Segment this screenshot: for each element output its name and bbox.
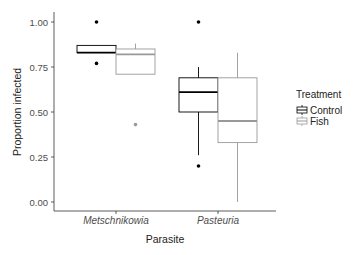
y-tick-label: 0.25 bbox=[30, 152, 49, 163]
y-tick-label: 0.00 bbox=[30, 197, 49, 208]
legend-label: Fish bbox=[310, 116, 329, 127]
box-control-pasteuria bbox=[179, 20, 218, 168]
legend: Treatment ControlFish bbox=[296, 89, 342, 127]
outlier-point bbox=[95, 20, 99, 24]
legend-label: Control bbox=[310, 105, 342, 116]
boxes bbox=[77, 20, 257, 202]
outlier-point bbox=[197, 164, 201, 168]
x-tick-label: Pasteuria bbox=[197, 215, 240, 226]
outlier-point bbox=[95, 62, 99, 66]
x-ticks: MetschnikowiaPasteuria bbox=[83, 211, 239, 226]
outlier-point bbox=[197, 20, 201, 24]
outlier-point bbox=[134, 123, 138, 127]
boxplot-chart: 0.000.250.500.751.00 MetschnikowiaPasteu… bbox=[0, 0, 354, 255]
legend-title: Treatment bbox=[296, 89, 341, 100]
box-fish-pasteuria bbox=[218, 53, 257, 202]
x-tick-label: Metschnikowia bbox=[83, 215, 149, 226]
legend-item-control: Control bbox=[297, 105, 342, 116]
legend-item-fish: Fish bbox=[297, 116, 329, 127]
y-axis-title: Proportion infected bbox=[11, 68, 23, 156]
x-axis-title: Parasite bbox=[146, 233, 185, 245]
box-fish-metschnikowia bbox=[116, 44, 155, 127]
y-tick-label: 0.50 bbox=[30, 107, 49, 118]
y-ticks: 0.000.250.500.751.00 bbox=[30, 17, 55, 208]
box-control-metschnikowia bbox=[77, 20, 116, 65]
y-tick-label: 0.75 bbox=[30, 62, 49, 73]
y-tick-label: 1.00 bbox=[30, 17, 49, 28]
